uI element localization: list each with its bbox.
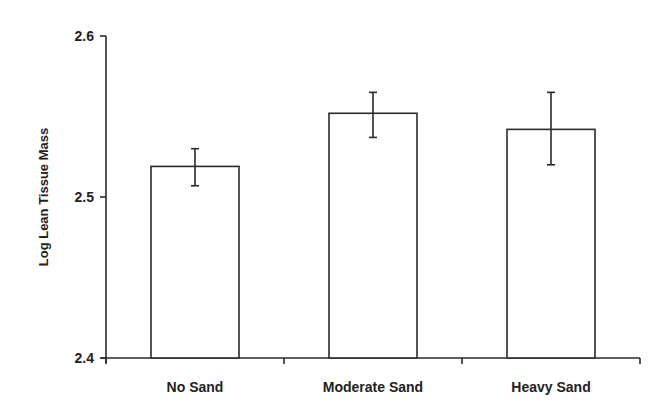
x-category-label: Heavy Sand [511,379,590,395]
bar-chart: 2.42.52.6Log Lean Tissue MassNo SandMode… [0,0,664,417]
x-category-label: No Sand [167,379,224,395]
y-tick-label: 2.6 [75,28,95,44]
x-category-label: Moderate Sand [323,379,423,395]
y-tick-label: 2.5 [75,189,95,205]
y-tick-label: 2.4 [75,350,95,366]
plot-area: 2.42.52.6Log Lean Tissue MassNo SandMode… [36,28,640,395]
bar-moderate-sand [329,113,417,358]
y-axis-title: Log Lean Tissue Mass [36,128,51,266]
bar-no-sand [151,166,239,358]
